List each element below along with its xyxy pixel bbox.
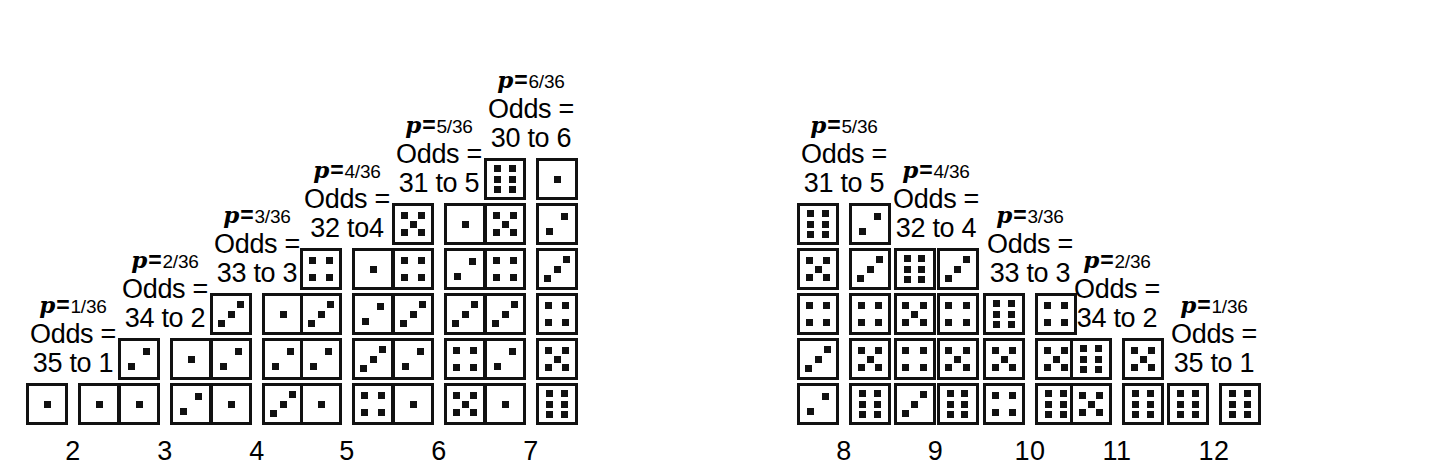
dice-pair-4-2: [392, 248, 486, 290]
pip: [1192, 401, 1199, 408]
pip: [471, 301, 478, 308]
pip: [318, 311, 325, 318]
pip: [309, 274, 316, 281]
pip: [561, 213, 568, 220]
die-face-1: [536, 158, 578, 200]
pip: [859, 390, 866, 397]
dice-pair-3-4: [484, 293, 578, 335]
probability-value: 6/36: [528, 71, 564, 92]
pip: [410, 221, 417, 228]
pip: [918, 276, 925, 283]
pip: [453, 392, 460, 399]
pip: [904, 276, 911, 283]
pip: [546, 411, 553, 418]
pip: [1096, 392, 1103, 399]
pip: [867, 266, 874, 273]
odds-value-3: 34 to 2: [122, 304, 208, 332]
pip: [992, 392, 999, 399]
probability-value: 4/36: [344, 161, 380, 182]
probability-symbol: p: [902, 156, 918, 183]
dice-pair-6-6: [1167, 383, 1261, 425]
pip: [44, 401, 51, 408]
pip: [545, 347, 552, 354]
pip: [993, 300, 1000, 307]
dice-column-8: p=5/36Odds =31 to 5: [797, 113, 891, 425]
dice-stack-12: [1167, 383, 1261, 425]
die-face-3: [536, 248, 578, 290]
dice-column-7: p=6/36Odds =30 to 6: [484, 68, 578, 425]
pip: [287, 348, 294, 355]
equals-sign: =: [1196, 292, 1211, 318]
pip: [462, 311, 469, 318]
probability-symbol: p: [996, 201, 1012, 228]
pip: [1045, 390, 1052, 397]
probability-label-7: p=6/36: [488, 68, 574, 92]
pip: [378, 392, 385, 399]
pip: [1045, 401, 1052, 408]
pip: [1088, 401, 1095, 408]
pip: [546, 228, 553, 235]
pip: [545, 302, 552, 309]
pip: [318, 401, 325, 408]
dice-stack-2: [26, 383, 120, 425]
dice-pair-2-1: [118, 338, 212, 380]
pip: [1148, 364, 1155, 371]
pip: [510, 274, 517, 281]
pip: [360, 365, 367, 372]
probability-value: 2/36: [1114, 251, 1150, 272]
pip: [462, 401, 469, 408]
odds-value-4: 33 to 3: [214, 259, 300, 287]
probability-symbol: p: [131, 246, 147, 273]
pip: [1001, 356, 1008, 363]
dice-pair-4-3: [484, 248, 578, 290]
odds-value-11: 34 to 2: [1074, 304, 1160, 332]
pip: [904, 266, 911, 273]
pip: [875, 364, 882, 371]
pip: [1044, 302, 1051, 309]
equals-sign: =: [239, 202, 254, 228]
dice-pair-2-6: [797, 383, 891, 425]
sum-label-10: 10: [983, 436, 1077, 467]
die-face-5: [894, 293, 936, 335]
sum-label-2: 2: [26, 436, 120, 467]
pip: [554, 356, 561, 363]
pip: [235, 348, 242, 355]
die-face-1: [210, 383, 252, 425]
pip: [469, 258, 476, 265]
pip: [289, 391, 296, 398]
pip: [1061, 302, 1068, 309]
equals-sign: =: [918, 157, 933, 183]
probability-symbol: p: [39, 291, 55, 318]
pip: [954, 266, 961, 273]
pip: [920, 302, 927, 309]
pip: [945, 364, 952, 371]
dice-pair-5-4: [894, 293, 979, 335]
pip: [401, 257, 408, 264]
pip: [96, 401, 103, 408]
sum-label-5: 5: [300, 436, 394, 467]
pip: [188, 356, 195, 363]
pip: [509, 165, 516, 172]
sum-label-9: 9: [893, 436, 978, 467]
pip: [128, 363, 135, 370]
pip: [280, 311, 287, 318]
pip: [402, 363, 409, 370]
probability-value: 5/36: [841, 116, 877, 137]
pip: [510, 229, 517, 236]
dice-pair-3-5: [797, 338, 891, 380]
pip: [378, 409, 385, 416]
dice-column-10: p=3/36Odds =33 to 3: [983, 203, 1077, 425]
probability-label-6: p=5/36: [396, 113, 482, 137]
die-face-5: [392, 203, 434, 245]
probability-value: 2/36: [162, 251, 198, 272]
pip: [902, 364, 909, 371]
pip: [963, 302, 970, 309]
die-face-3: [937, 248, 979, 290]
pip: [195, 393, 202, 400]
probability-label-2: p=1/36: [30, 293, 116, 317]
pip: [806, 319, 813, 326]
pip: [947, 390, 954, 397]
pip: [1080, 366, 1087, 373]
column-labels-8: p=5/36Odds =31 to 5: [801, 113, 887, 197]
pip: [822, 210, 829, 217]
